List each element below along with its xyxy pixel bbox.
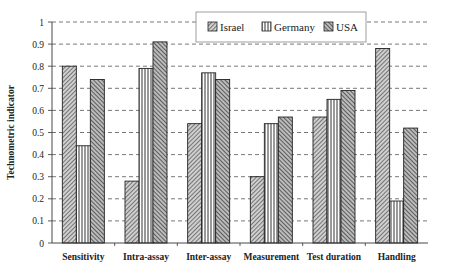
- y-tick-label: 0.8: [32, 62, 44, 72]
- y-tick-label: 0.5: [32, 128, 44, 138]
- legend-swatch: [208, 22, 217, 31]
- bar: [139, 68, 153, 243]
- x-tick-label: Sensitivity: [62, 252, 104, 262]
- bar: [188, 124, 202, 243]
- bar: [264, 124, 278, 243]
- bar: [390, 201, 404, 243]
- y-tick-label: 1: [39, 18, 44, 28]
- legend-label: USA: [336, 21, 358, 33]
- bar: [90, 79, 104, 243]
- y-tick-label: 0.2: [32, 194, 44, 204]
- x-tick-label: Measurement: [243, 252, 300, 262]
- y-tick-label: 0: [39, 239, 44, 249]
- y-tick-label: 0.7: [32, 84, 44, 94]
- y-tick-label: 0.3: [32, 172, 44, 182]
- bar: [313, 117, 327, 243]
- bar: [62, 66, 76, 243]
- bar: [202, 73, 216, 243]
- legend-label: Israel: [220, 21, 244, 33]
- x-tick-label: Test duration: [307, 252, 362, 262]
- x-tick-label: Inter-assay: [186, 252, 231, 262]
- bar: [125, 181, 139, 243]
- y-tick-label: 0.1: [32, 216, 44, 226]
- bar: [278, 117, 292, 243]
- bar: [216, 79, 230, 243]
- bar: [76, 146, 90, 243]
- y-tick-label: 0.6: [32, 106, 44, 116]
- bar: [341, 91, 355, 243]
- x-tick-label: Handling: [378, 252, 416, 262]
- y-axis-label: Technometric indicator: [6, 84, 16, 180]
- gridlines: [52, 22, 428, 221]
- bars: [62, 42, 417, 243]
- bar: [250, 177, 264, 243]
- bar-chart: 00.10.20.30.40.50.60.70.80.91Technometri…: [0, 0, 451, 277]
- y-tick-label: 0.9: [32, 40, 44, 50]
- bar: [327, 99, 341, 243]
- bar: [404, 128, 418, 243]
- legend-swatch: [262, 22, 271, 31]
- x-tick-label: Intra-assay: [123, 252, 169, 262]
- bar: [153, 42, 167, 243]
- legend-swatch: [324, 22, 333, 31]
- y-tick-label: 0.4: [32, 150, 44, 160]
- bar: [376, 49, 390, 243]
- legend: IsraelGermanyUSA: [196, 12, 366, 42]
- legend-label: Germany: [274, 21, 315, 33]
